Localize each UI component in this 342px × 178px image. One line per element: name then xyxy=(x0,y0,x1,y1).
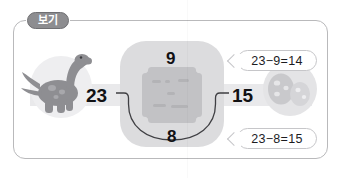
dinosaur-icon xyxy=(21,54,92,113)
equation-text-top: 23−9=14 xyxy=(251,54,302,68)
worksheet-canvas: 보기 xyxy=(0,0,342,178)
page-seam xyxy=(187,0,188,178)
number-part-top: 9 xyxy=(166,50,175,67)
dinosaur-eye-icon xyxy=(80,56,82,58)
number-result: 15 xyxy=(232,86,253,105)
equation-text-bottom: 23−8=15 xyxy=(251,132,302,146)
number-part-bottom: 8 xyxy=(167,128,176,145)
equation-bubble-bottom: 23−8=15 xyxy=(237,128,317,149)
illustration-layer xyxy=(0,0,342,178)
number-whole: 23 xyxy=(86,86,107,105)
equation-bubble-top: 23−9=14 xyxy=(237,50,317,71)
eggs-icon xyxy=(268,74,310,107)
